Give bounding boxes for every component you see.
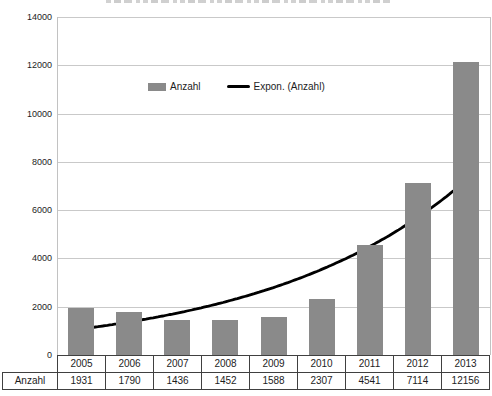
table-value-cell-2009: 1588: [249, 373, 297, 389]
table-value-cell-2011: 4541: [345, 373, 393, 389]
bar-2008: [212, 320, 238, 355]
legend-item-anzahl: Anzahl: [148, 81, 201, 92]
bar-2009: [261, 317, 287, 355]
excel-chart-canvas: 02000400060008000100001200014000 Anzahl …: [0, 0, 492, 396]
bar-series-swatch-icon: [148, 83, 166, 91]
bar-2011: [357, 245, 383, 355]
legend-item-expon: Expon. (Anzahl): [227, 81, 325, 92]
chart-legend: Anzahl Expon. (Anzahl): [148, 81, 325, 92]
legend-label-expon: Expon. (Anzahl): [254, 81, 325, 92]
table-year-cell-2008: 2008: [201, 356, 249, 372]
data-table-values-row: Anzahl1931179014361452158823074541711412…: [2, 372, 490, 390]
bar-2013: [453, 62, 479, 356]
table-year-cell-2005: 2005: [57, 356, 105, 372]
table-year-cell-2006: 2006: [105, 356, 153, 372]
trendline-swatch-icon: [227, 85, 250, 88]
data-table-years-row: 200520062007200820092010201120122013: [57, 355, 490, 372]
table-value-cell-2008: 1452: [201, 373, 249, 389]
bar-2006: [116, 312, 142, 355]
table-year-cell-2009: 2009: [249, 356, 297, 372]
table-year-cell-2007: 2007: [153, 356, 201, 372]
table-year-cell-2013: 2013: [441, 356, 490, 372]
table-value-cell-2012: 7114: [393, 373, 441, 389]
table-value-cell-2010: 2307: [297, 373, 345, 389]
table-year-cell-2010: 2010: [297, 356, 345, 372]
table-value-cell-2007: 1436: [153, 373, 201, 389]
bar-2012: [405, 183, 431, 355]
bar-2005: [68, 308, 94, 355]
table-value-cell-2006: 1790: [105, 373, 153, 389]
table-row-header-anzahl: Anzahl: [2, 373, 57, 389]
table-value-cell-2013: 12156: [441, 373, 490, 389]
legend-label-anzahl: Anzahl: [170, 81, 201, 92]
table-year-cell-2011: 2011: [345, 356, 393, 372]
table-value-cell-2005: 1931: [57, 373, 105, 389]
bar-2010: [309, 299, 335, 355]
table-year-cell-2012: 2012: [393, 356, 441, 372]
bar-2007: [164, 320, 190, 355]
